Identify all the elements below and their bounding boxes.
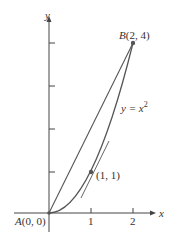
chord-AB <box>49 43 133 213</box>
curve-equation-exp: 2 <box>144 100 148 109</box>
y-axis-label: y <box>44 9 50 21</box>
point-P <box>89 170 93 174</box>
point-B-coords: (2, 4) <box>126 29 150 42</box>
x-axis-arrow-icon <box>150 211 156 216</box>
x-tick-label-1: 1 <box>88 215 94 227</box>
x-tick-label-2: 2 <box>130 215 136 227</box>
curve-equation-lhs: y = <box>120 102 139 114</box>
point-A <box>47 211 51 215</box>
point-A-label: A(0, 0) <box>14 215 46 228</box>
y-ticks <box>49 43 55 172</box>
parabola-diagram: y x 1 2 A(0, 0) B(2, 4) (1, 1) y = x2 <box>0 0 189 242</box>
point-B-label: B(2, 4) <box>119 29 150 42</box>
point-P-label: (1, 1) <box>96 169 120 182</box>
x-axis-label: x <box>158 207 164 219</box>
point-A-coords: (0, 0) <box>22 215 46 228</box>
curve-equation-label: y = x2 <box>120 100 148 114</box>
x-ticks <box>91 208 133 213</box>
point-B <box>131 41 135 45</box>
